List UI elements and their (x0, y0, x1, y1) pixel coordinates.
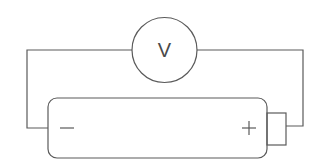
battery-body (48, 98, 267, 158)
right-wire (197, 50, 303, 126)
battery (48, 98, 286, 158)
left-wire (27, 50, 132, 128)
voltmeter-symbol: V (158, 39, 172, 61)
circuit-diagram: V (0, 0, 324, 166)
battery-positive-terminal (267, 113, 286, 145)
voltmeter: V (132, 18, 197, 83)
